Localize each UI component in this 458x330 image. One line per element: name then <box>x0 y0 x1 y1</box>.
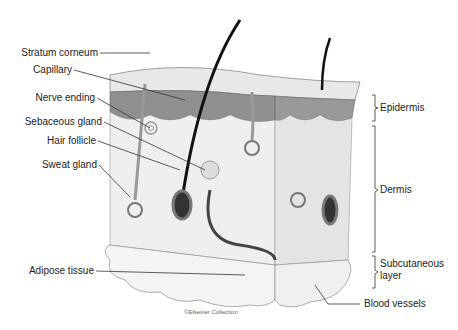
label-sebaceous-gland: Sebaceous gland <box>25 116 102 128</box>
label-epidermis: Epidermis <box>380 102 424 114</box>
label-blood-vessels: Blood vessels <box>364 298 426 310</box>
label-subcutaneous: Subcutaneous <box>380 258 444 270</box>
label-layer: layer <box>380 270 402 282</box>
label-adipose-tissue: Adipose tissue <box>29 265 94 277</box>
label-capillary: Capillary <box>33 64 72 76</box>
label-stratum-corneum: Stratum corneum <box>21 47 98 59</box>
label-hair-follicle: Hair follicle <box>47 135 96 147</box>
label-dermis: Dermis <box>380 184 412 196</box>
label-sweat-gland: Sweat gland <box>42 159 97 171</box>
copyright-credit: ©Elsevier Collection <box>184 309 238 315</box>
label-nerve-ending: Nerve ending <box>36 92 95 104</box>
